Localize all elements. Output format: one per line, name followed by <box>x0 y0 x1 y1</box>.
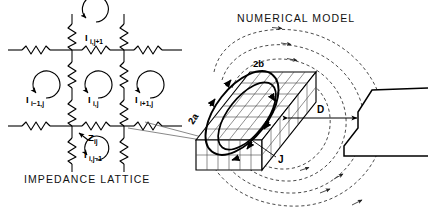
impedance-label-sub: ij <box>94 138 98 146</box>
figure-canvas: I i,j+1 I i−1,j I i,j I i+1,j I i,j−1 Z … <box>0 0 428 224</box>
loop-label-left-sub: i−1,j <box>31 100 44 108</box>
loop-label-up-sub: i,j+1 <box>90 38 103 46</box>
current-density-label: J <box>278 154 284 165</box>
minor-axis-label: 2b <box>253 58 264 69</box>
loop-label-down-sub: i,j−1 <box>89 155 102 163</box>
loop-label-center-sub: i,j <box>93 100 99 108</box>
impedance-lattice-caption: IMPEDANCE LATTICE <box>24 173 150 185</box>
standoff-label: D <box>317 104 324 115</box>
loop-label-left-base: I <box>26 94 29 105</box>
loop-label-right-sub: i+1,j <box>140 100 153 108</box>
numerical-model-caption: NUMERICAL MODEL <box>237 12 355 24</box>
loop-label-right-base: I <box>135 94 138 105</box>
loop-label-down-base: I <box>84 149 87 160</box>
technical-figure: I i,j+1 I i−1,j I i,j I i+1,j I i,j−1 Z … <box>0 0 428 224</box>
loop-label-up-base: I <box>85 32 88 43</box>
loop-label-center-base: I <box>88 94 91 105</box>
